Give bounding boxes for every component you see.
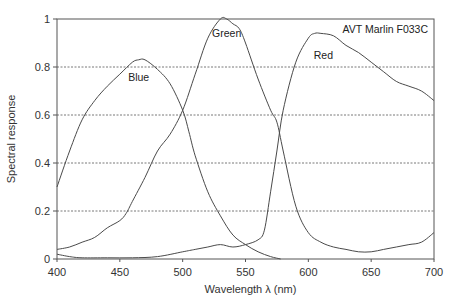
- y-axis-ticks: 00.20.40.60.81: [35, 13, 57, 265]
- x-tick-label: 650: [362, 266, 380, 278]
- series-label-red: Red: [314, 49, 333, 61]
- curves: [57, 17, 434, 259]
- y-tick-label: 0.8: [35, 61, 50, 73]
- x-axis-title: Wavelength λ (nm): [205, 283, 297, 295]
- y-axis-title: Spectral response: [5, 95, 17, 184]
- x-tick-label: 400: [48, 266, 66, 278]
- x-tick-label: 500: [173, 266, 191, 278]
- spectral-response-chart: 400450500550600650700 00.20.40.60.81 Blu…: [0, 0, 459, 308]
- series-label-blue: Blue: [128, 71, 149, 83]
- plot-frame: [57, 19, 434, 259]
- y-tick-label: 0.4: [35, 157, 50, 169]
- curve-green: [57, 17, 434, 252]
- y-tick-label: 0: [44, 253, 50, 265]
- series-labels: BlueGreenRed: [128, 27, 333, 82]
- camera-model-annotation: AVT Marlin F033C: [343, 23, 429, 35]
- curve-blue: [57, 59, 281, 259]
- x-tick-label: 550: [236, 266, 254, 278]
- y-tick-label: 0.6: [35, 109, 50, 121]
- x-tick-label: 600: [299, 266, 317, 278]
- gridlines: [57, 67, 434, 211]
- x-tick-label: 450: [111, 266, 129, 278]
- y-tick-label: 0.2: [35, 205, 50, 217]
- x-axis-ticks: 400450500550600650700: [48, 259, 443, 278]
- y-tick-label: 1: [44, 13, 50, 25]
- series-label-green: Green: [212, 27, 241, 39]
- x-tick-label: 700: [425, 266, 443, 278]
